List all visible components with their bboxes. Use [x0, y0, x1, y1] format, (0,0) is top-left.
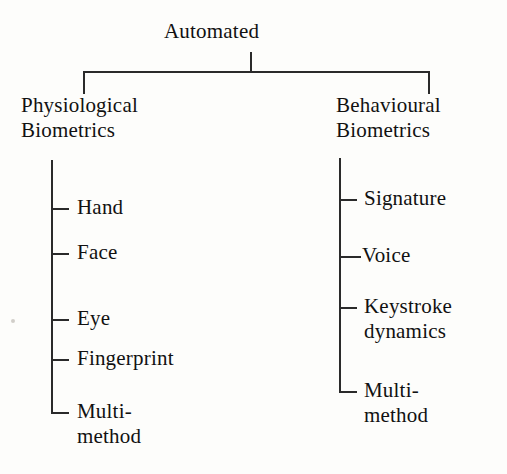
spine-behavioural [339, 158, 341, 393]
leaf-signature: Signature [364, 187, 446, 211]
root-stem-connector [250, 52, 252, 72]
branch-drop-behavioural [428, 71, 430, 94]
root-horizontal-connector [83, 71, 430, 73]
tick-face [51, 253, 69, 255]
leaf-hand: Hand [77, 196, 123, 220]
leaf-multi-method-physiological-line1: Multi- [77, 400, 132, 424]
leaf-keystroke-line1: Keystroke [364, 295, 452, 319]
leaf-face: Face [77, 241, 117, 265]
branch-label-behavioural-line2: Biometrics [336, 119, 430, 143]
branch-label-behavioural-line1: Behavioural [336, 94, 441, 118]
branch-label-physiological-line1: Physiological [21, 94, 138, 118]
tick-keystroke-dynamics [339, 307, 357, 309]
leaf-voice: Voice [362, 244, 410, 268]
root-node-automated: Automated [164, 20, 259, 44]
spine-foot-physiological [51, 412, 69, 414]
tick-signature [339, 199, 357, 201]
scan-speck-artifact [11, 319, 15, 323]
leaf-multi-method-behavioural-line2: method [364, 404, 428, 428]
tick-voice [339, 256, 361, 258]
leaf-fingerprint: Fingerprint [77, 347, 174, 371]
leaf-multi-method-physiological-line2: method [77, 425, 141, 449]
spine-foot-behavioural [339, 391, 357, 393]
leaf-keystroke-line2: dynamics [364, 320, 446, 344]
tick-eye [51, 319, 69, 321]
tick-fingerprint [51, 359, 69, 361]
branch-drop-physiological [83, 71, 85, 94]
leaf-multi-method-behavioural-line1: Multi- [364, 379, 419, 403]
biometrics-taxonomy-diagram: Automated Physiological Biometrics Hand … [0, 0, 507, 474]
tick-hand [51, 208, 69, 210]
branch-label-physiological-line2: Biometrics [21, 119, 115, 143]
leaf-eye: Eye [77, 307, 110, 331]
spine-physiological [51, 160, 53, 414]
